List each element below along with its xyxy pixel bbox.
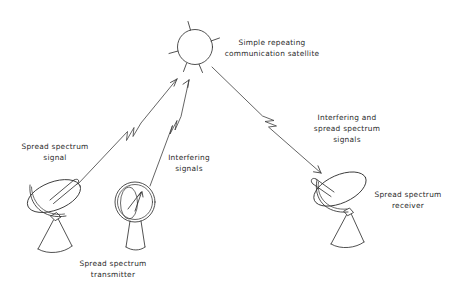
receiver-signal-label: Interfering and spread spectrum signals — [314, 113, 380, 144]
downlink-combined-arrow — [212, 67, 321, 173]
uplink-spread-spectrum-arrow — [78, 79, 177, 184]
interferer-label: Interfering signals — [168, 153, 210, 173]
interferer-dish-icon — [115, 182, 155, 250]
satellite-label-line2: communication satellite — [225, 49, 320, 58]
satellite-communication-diagram: Simple repeating communication satellite — [0, 0, 459, 286]
combined-signal-label-line1: Interfering and — [318, 113, 377, 122]
receiver-label: Spread spectrum receiver — [374, 190, 441, 210]
transmitter-label-line1: Spread spectrum — [79, 259, 146, 268]
transmitter-signal-label: Spread spectrum signal — [21, 142, 88, 162]
receiver-dish-icon — [309, 165, 372, 248]
transmitter-dish-icon — [23, 173, 85, 253]
interfering-label-line2: signals — [175, 164, 202, 173]
transmitter-label: Spread spectrum transmitter — [79, 259, 146, 279]
satellite-icon — [169, 22, 220, 73]
receiver-label-line1: Spread spectrum — [374, 190, 441, 199]
satellite-label-line1: Simple repeating — [238, 38, 305, 47]
satellite-label: Simple repeating communication satellite — [225, 38, 320, 58]
diagram-page: Simple repeating communication satellite — [0, 0, 459, 286]
receiver-label-line2: receiver — [392, 201, 425, 210]
spread-signal-label-line1: Spread spectrum — [21, 142, 88, 151]
combined-signal-label-line3: signals — [333, 135, 360, 144]
spread-signal-label-line2: signal — [43, 153, 66, 162]
transmitter-label-line2: transmitter — [91, 270, 136, 279]
interfering-label-line1: Interfering — [168, 153, 210, 162]
combined-signal-label-line2: spread spectrum — [314, 124, 380, 133]
